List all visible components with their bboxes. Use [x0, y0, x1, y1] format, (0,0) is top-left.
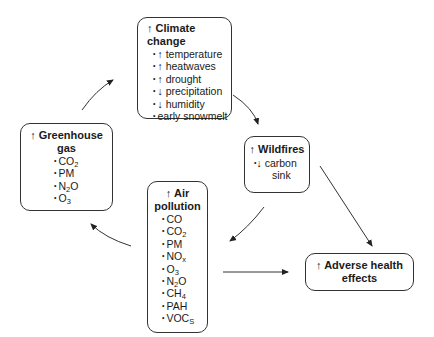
- edge-wildfires-to-air: [230, 207, 264, 241]
- node-items: CO2 PM N2O O3: [21, 155, 112, 205]
- node-title: ↑ Wildfires: [245, 143, 309, 156]
- list-item: CH4: [162, 287, 207, 299]
- increase-arrow-icon: ↑: [316, 259, 322, 271]
- list-item: •↓ carbon: [245, 157, 309, 169]
- list-item: CO2: [54, 155, 112, 167]
- decrease-arrow-icon: ↓: [157, 98, 162, 110]
- node-title: ↑ Greenhouse gas: [21, 129, 112, 155]
- edge-climate-to-wildfires: [233, 95, 258, 124]
- decrease-arrow-icon: ↓: [256, 157, 261, 169]
- list-item-continuation: sink: [245, 169, 309, 181]
- list-item: N2O: [54, 180, 112, 192]
- list-item: O3: [162, 263, 207, 275]
- node-title: ↑ Climate change: [147, 22, 231, 48]
- list-item: O3: [54, 192, 112, 204]
- list-item: PAH: [162, 300, 207, 312]
- node-wildfires: ↑ Wildfires •↓ carbon sink: [244, 136, 310, 193]
- list-item: PM: [54, 167, 112, 179]
- list-item: PM: [162, 238, 207, 250]
- node-air-pollution: ↑ Air pollution CO CO2 PM NOx O3 N2O CH4…: [147, 181, 208, 333]
- increase-arrow-icon: ↑: [157, 48, 162, 60]
- increase-arrow-icon: ↑: [157, 60, 162, 72]
- list-item: VOCS: [162, 312, 207, 324]
- node-items: ↑ temperature ↑ heatwaves ↑ drought ↓ pr…: [147, 48, 231, 122]
- edge-air-to-greenhouse: [91, 224, 131, 246]
- node-title: ↑ Air pollution: [148, 187, 207, 213]
- increase-arrow-icon: ↑: [147, 22, 153, 34]
- list-item: NOx: [162, 250, 207, 262]
- list-item: early snowmelt: [153, 110, 231, 122]
- node-items: CO CO2 PM NOx O3 N2O CH4 PAH VOCS: [148, 213, 207, 325]
- list-item: ↑ temperature: [153, 48, 231, 60]
- list-item: CO: [162, 213, 207, 225]
- list-item: ↓ humidity: [153, 98, 231, 110]
- node-climate-change: ↑ Climate change ↑ temperature ↑ heatwav…: [137, 17, 232, 119]
- increase-arrow-icon: ↑: [157, 73, 162, 85]
- edge-wildfires-to-health: [320, 166, 372, 246]
- edge-greenhouse-to-climate: [82, 80, 113, 110]
- node-greenhouse-gas: ↑ Greenhouse gas CO2 PM N2O O3: [20, 123, 113, 211]
- list-item: ↑ drought: [153, 73, 231, 85]
- node-title: ↑ Adverse health effects: [306, 259, 413, 285]
- increase-arrow-icon: ↑: [250, 143, 256, 155]
- increase-arrow-icon: ↑: [166, 187, 172, 199]
- node-adverse-health-effects: ↑ Adverse health effects: [305, 253, 414, 291]
- list-item: ↓ precipitation: [153, 85, 231, 97]
- increase-arrow-icon: ↑: [30, 129, 36, 141]
- decrease-arrow-icon: ↓: [157, 85, 162, 97]
- list-item: ↑ heatwaves: [153, 60, 231, 72]
- list-item: N2O: [162, 275, 207, 287]
- list-item: CO2: [162, 225, 207, 237]
